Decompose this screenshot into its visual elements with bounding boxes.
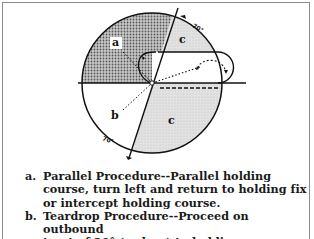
legend-item-b: b. Teardrop Procedure--Proceed on outbou… xyxy=(25,210,310,239)
legend-text: Teardrop Procedure--Proceed on outbound … xyxy=(43,210,310,239)
holding-entry-diagram: a c b c 70° 70° xyxy=(0,0,314,170)
legend-key: a. xyxy=(25,170,43,210)
legend-key: b. xyxy=(25,210,43,239)
label-a: a xyxy=(112,36,119,49)
label-c-lower: c xyxy=(168,114,175,127)
legend-item-a: a. Parallel Procedure--Parallel holding … xyxy=(25,170,310,210)
legend: a. Parallel Procedure--Parallel holding … xyxy=(25,170,310,239)
label-b: b xyxy=(111,109,119,122)
legend-text: Parallel Procedure--Parallel holding cou… xyxy=(43,170,310,210)
label-c-upper: c xyxy=(179,33,186,46)
